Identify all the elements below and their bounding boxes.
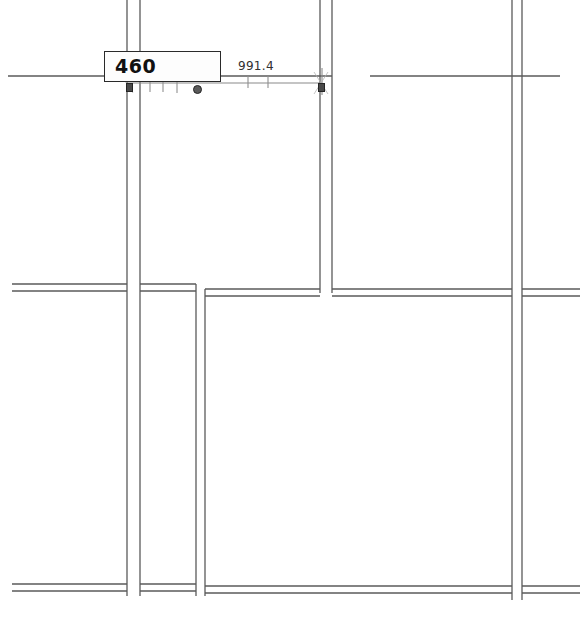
grip-mid-circle[interactable] <box>193 85 202 94</box>
cad-drawing-canvas[interactable]: 460 991.4 <box>0 0 587 626</box>
floor-plan-linework <box>0 0 587 626</box>
dimension-value-input[interactable]: 460 <box>104 51 221 82</box>
dimension-value-text: 460 <box>105 57 156 76</box>
dimension-length-label: 991.4 <box>238 59 274 73</box>
grip-start-square[interactable] <box>126 83 133 92</box>
grip-end-square[interactable] <box>318 83 325 92</box>
